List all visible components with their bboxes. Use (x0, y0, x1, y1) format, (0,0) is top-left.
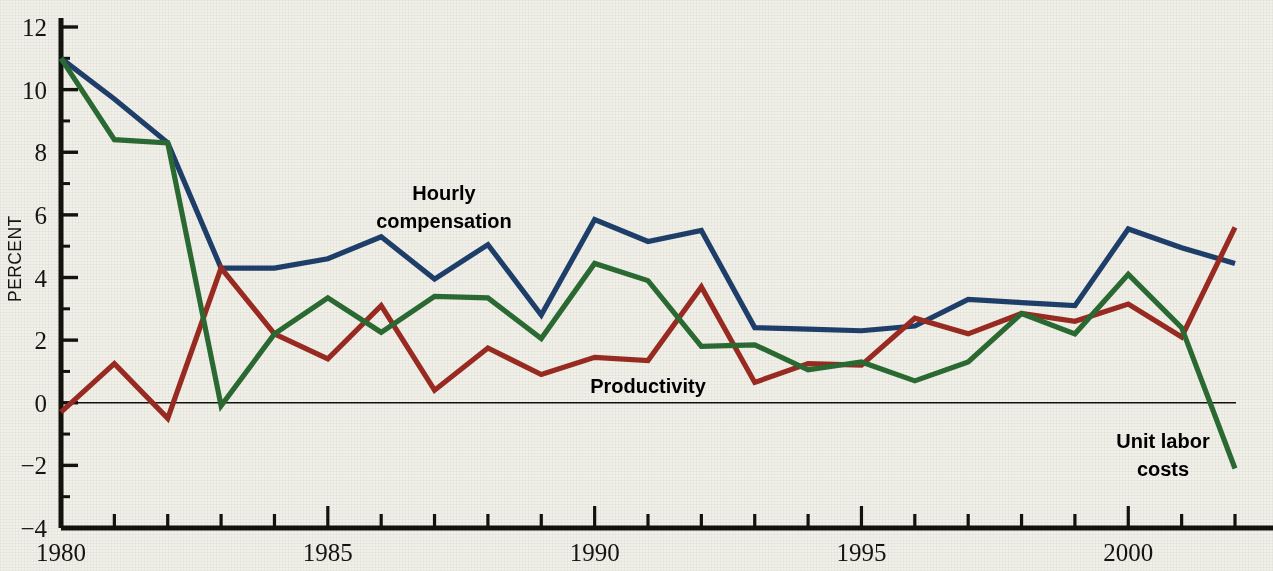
chart-container: 121086420−2−419801985199019952000PERCENT… (0, 0, 1273, 571)
y-tick-label: 0 (35, 390, 48, 417)
y-tick-label: 6 (35, 202, 48, 229)
data-series (61, 58, 1235, 468)
y-tick-label: 10 (22, 77, 47, 104)
label-productivity: Productivity (590, 375, 706, 397)
label-unit-labor-costs-line2: costs (1137, 458, 1189, 480)
y-tick-label: 8 (35, 139, 48, 166)
y-tick-label: 12 (22, 14, 47, 41)
x-tick-label: 1980 (36, 539, 86, 566)
series-line-unit-labor-costs (61, 58, 1235, 468)
axes (61, 18, 1273, 528)
y-tick-label: −4 (20, 515, 47, 542)
tick-labels: 121086420−2−419801985199019952000PERCENT (5, 14, 1153, 566)
x-tick-label: 2000 (1103, 539, 1153, 566)
y-tick-label: −2 (20, 452, 47, 479)
x-tick-label: 1985 (303, 539, 353, 566)
label-hourly-compensation-line2: compensation (376, 210, 512, 232)
label-unit-labor-costs-line1: Unit labor (1116, 430, 1210, 452)
y-axis-title: PERCENT (5, 216, 25, 302)
label-hourly-compensation-line1: Hourly (412, 182, 476, 204)
x-tick-label: 1995 (836, 539, 886, 566)
x-tick-label: 1990 (570, 539, 620, 566)
y-tick-label: 4 (35, 265, 48, 292)
line-chart-plot: 121086420−2−419801985199019952000PERCENT… (0, 0, 1273, 571)
y-tick-label: 2 (35, 327, 48, 354)
